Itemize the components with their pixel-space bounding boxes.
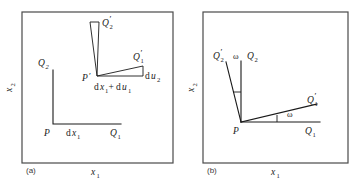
- panel-a-axis-x-subscript: 1: [97, 172, 100, 179]
- panel-b-caption: (b): [207, 166, 217, 175]
- panel-a-Q2-subscript: 2: [46, 63, 50, 70]
- panel-b-Q2-letter: Q: [247, 51, 254, 61]
- panel-a-label-dx1: d x 1: [66, 128, 80, 140]
- panel-a-axis-y-letter: x: [4, 87, 14, 93]
- panel-b-axis-y-subscript: 2: [191, 83, 198, 86]
- panel-b-Q2-subscript: 2: [255, 56, 258, 63]
- figure-svg: Q 2 P d x 1 Q 1 P ′ Q 2 ′ Q 1 ′ d: [0, 0, 362, 184]
- panel-b-axis-y-letter: x: [186, 87, 196, 93]
- panel-a-label-Q2: Q 2: [38, 58, 50, 70]
- panel-a-Q2prime-letter: Q: [102, 18, 109, 28]
- panel-b-Q1-subscript: 1: [313, 131, 316, 138]
- panel-a-du2-subscript: 2: [157, 76, 160, 83]
- panel-b-Q1-letter: Q: [305, 126, 312, 136]
- panel-a: Q 2 P d x 1 Q 1 P ′ Q 2 ′ Q 1 ′ d: [4, 12, 173, 179]
- panel-b-label-Q1prime: Q 1 ′: [307, 91, 318, 107]
- panel-a-label-du2: d u 2: [145, 71, 160, 83]
- panel-b-axis-x-subscript: 1: [277, 172, 280, 179]
- panel-a-Q2-letter: Q: [38, 58, 45, 68]
- panel-b-Q2prime-mark: ′: [221, 47, 223, 57]
- panel-a-du2-u: u: [151, 71, 156, 81]
- panel-b-label-Q2: Q 2: [247, 51, 258, 63]
- panel-a-label-Q1prime: Q 1 ′: [133, 48, 144, 64]
- panel-a-dxdu-u-sub: 1: [128, 87, 131, 94]
- panel-a-Q1prime-mark: ′: [141, 48, 143, 58]
- panel-a-Q1prime-subscript: 1: [141, 57, 144, 64]
- panel-a-dxdu-plus: +: [109, 82, 114, 92]
- panel-a-Q1-subscript: 1: [118, 133, 121, 140]
- panel-b-omega-right: ω: [287, 109, 293, 119]
- panel-b-label-P: P: [232, 126, 239, 136]
- panel-a-Pprime-letter: P: [81, 73, 88, 83]
- panel-a-axis-y-label: x 2: [4, 83, 16, 93]
- panel-a-Q1prime-letter: Q: [133, 52, 140, 62]
- panel-b-Q1prime-letter: Q: [307, 95, 314, 105]
- panel-b-Q2prime-subscript: 2: [221, 56, 224, 63]
- panel-a-dxdu-d1: d: [94, 82, 99, 92]
- panel-a-dx1-subscript: 1: [77, 133, 80, 140]
- panel-a-axis-y-subscript: 2: [9, 83, 16, 86]
- panel-b-rotated-horizontal-vector: [241, 104, 317, 122]
- panel-a-label-Q1: Q 1: [110, 128, 121, 140]
- panel-a-dxdu-u: u: [122, 82, 127, 92]
- panel-b-Q1prime-subscript: 1: [315, 100, 318, 107]
- panel-a-Q1-letter: Q: [110, 128, 117, 138]
- figure-root: Q 2 P d x 1 Q 1 P ′ Q 2 ′ Q 1 ′ d: [0, 0, 362, 184]
- panel-a-Q2prime-mark: ′: [110, 14, 112, 24]
- panel-b-omega-top: ω: [233, 51, 239, 61]
- panel-b-axis-y-label: x 2: [186, 83, 198, 93]
- panel-a-dxdu-d2: d: [116, 82, 121, 92]
- panel-a-label-P: P: [43, 128, 50, 138]
- panel-a-label-dx1-plus-du1: d x 1 + d u 1: [94, 82, 131, 94]
- panel-a-Q2prime-subscript: 2: [110, 23, 113, 30]
- panel-b-label-Q2prime: Q 2 ′: [213, 47, 224, 63]
- panel-b-axis-x-label: x 1: [270, 167, 280, 179]
- panel-a-label-Pprime: P ′: [81, 71, 91, 83]
- panel-a-Pprime-mark: ′: [89, 71, 91, 81]
- panel-b-Q2prime-letter: Q: [213, 51, 220, 61]
- panel-a-caption: (a): [26, 166, 36, 175]
- panel-a-axis-x-letter: x: [90, 167, 96, 177]
- panel-a-dx1-d: d: [66, 128, 71, 138]
- panel-a-deformed-vertical-wedge: [90, 22, 99, 76]
- panel-b-frame: [203, 12, 348, 163]
- panel-b-Q1prime-mark: ′: [315, 91, 317, 101]
- panel-a-axis-x-label: x 1: [90, 167, 100, 179]
- panel-b: Q 2 Q 2 ′ ω P Q 1 Q 1 ′ ω (b) x 1 x 2: [186, 12, 348, 179]
- panel-b-axis-x-letter: x: [270, 167, 276, 177]
- panel-a-du2-d: d: [145, 71, 150, 81]
- panel-a-label-Q2prime: Q 2 ′: [102, 14, 113, 30]
- panel-b-label-Q1: Q 1: [305, 126, 316, 138]
- panel-a-deformed-horizontal-wedge: [97, 66, 143, 76]
